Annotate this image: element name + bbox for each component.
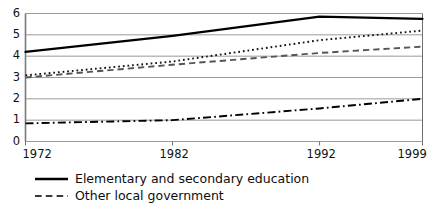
line-chart-figure: 0123456 1972198219921999 Elementary and … [0, 0, 444, 203]
y-tick-label-2: 2 [4, 93, 20, 105]
series-line-0-solid [26, 17, 423, 52]
y-tick-label-3: 3 [4, 72, 20, 84]
x-tick-label-1992: 1992 [307, 149, 336, 161]
series-line-1-dotted [26, 31, 423, 76]
legend-item-0: Elementary and secondary education [35, 170, 435, 187]
y-tick-label-1: 1 [4, 114, 20, 126]
x-tick-label-1982: 1982 [160, 149, 189, 161]
x-tick-label-1999: 1999 [398, 149, 427, 161]
legend-swatch-solid-icon [35, 173, 68, 185]
legend-label-1: Other local government [75, 189, 224, 203]
x-tick-label-1972: 1972 [23, 149, 52, 161]
y-tick-label-6: 6 [4, 8, 20, 20]
y-tick-label-5: 5 [4, 29, 20, 41]
series-line-2-dashed [26, 47, 423, 78]
legend-item-1: Other local government [35, 187, 435, 203]
y-tick-label-0: 0 [4, 136, 20, 148]
legend-label-0: Elementary and secondary education [75, 172, 309, 186]
y-tick-label-4: 4 [4, 50, 20, 62]
legend-swatch-dashed-icon [35, 190, 68, 202]
chart-legend: Elementary and secondary educationOther … [35, 170, 435, 203]
